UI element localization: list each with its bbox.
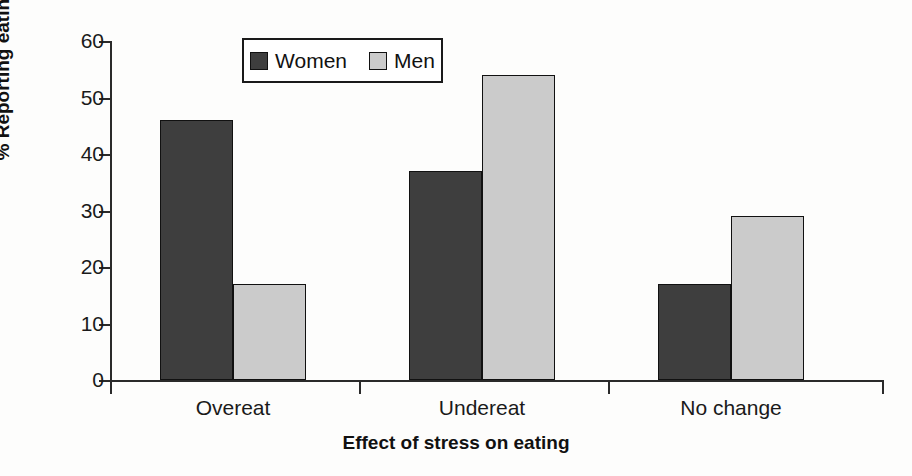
- chart-figure: % Reporting eating change 0102030405060 …: [0, 0, 912, 476]
- bar-men-undereat: [482, 75, 555, 380]
- y-axis-tick-label: 50: [81, 86, 104, 110]
- legend-label-men: Men: [394, 49, 435, 73]
- x-axis-category-label: No change: [680, 396, 782, 420]
- legend-label-women: Women: [275, 49, 347, 73]
- x-axis-line: [110, 380, 884, 382]
- y-axis-tick-label: 20: [81, 255, 104, 279]
- x-axis-separator-tick: [608, 382, 610, 394]
- x-axis-separator-tick: [359, 382, 361, 394]
- legend-swatch-women-icon: [250, 52, 268, 70]
- y-axis-tick-label: 30: [81, 199, 104, 223]
- x-axis-title: Effect of stress on eating: [0, 432, 912, 454]
- bar-men-no-change: [731, 216, 804, 380]
- x-axis-category-label: Overeat: [196, 396, 271, 420]
- x-axis-separator-tick: [882, 382, 884, 394]
- bar-women-undereat: [409, 171, 482, 380]
- legend-item-men: Men: [369, 49, 435, 73]
- bar-women-overeat: [160, 120, 233, 380]
- legend-item-women: Women: [250, 49, 347, 73]
- bar-men-overeat: [233, 284, 306, 380]
- x-axis-separator-tick: [110, 382, 112, 394]
- y-axis-tick-label: 60: [81, 29, 104, 53]
- legend-swatch-men-icon: [369, 52, 387, 70]
- x-axis-category-label: Undereat: [439, 396, 525, 420]
- y-axis-title: % Reporting eating change: [0, 0, 14, 208]
- chart-legend: Women Men: [242, 38, 443, 83]
- y-axis-tick-label: 40: [81, 142, 104, 166]
- bars-layer: [110, 41, 884, 380]
- bar-women-no-change: [658, 284, 731, 380]
- y-axis-tick-label: 10: [81, 312, 104, 336]
- y-axis-tick-label: 0: [92, 368, 104, 392]
